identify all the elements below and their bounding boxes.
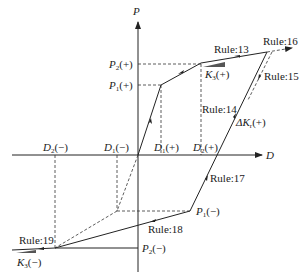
label-p2-positive: P2(+)	[108, 58, 133, 72]
d-axis-label: D	[265, 149, 274, 161]
hysteresis-diagram: P D P2(+) P1(+) P1(−) P2(−) D2(−) D1(−) …	[0, 0, 305, 279]
label-d2-negative: D2(−)	[42, 141, 68, 155]
label-d1-negative: D1(−)	[103, 141, 129, 155]
k3-negative-slope-icon	[16, 250, 36, 253]
rule19-line	[12, 248, 55, 250]
p-axis-label: P	[132, 5, 140, 17]
label-k3-negative: K3(−)	[16, 256, 42, 270]
label-d2-positive: D2(+)	[192, 141, 218, 155]
label-rule16: Rule:16	[263, 35, 298, 47]
label-rule13: Rule:13	[214, 43, 249, 55]
segment-p1-p2-positive	[161, 63, 201, 85]
label-rule18: Rule:18	[148, 223, 183, 235]
label-rule17: Rule:17	[210, 172, 245, 184]
negative-loading-dashed	[117, 155, 138, 211]
direction-arrow-icon	[150, 219, 156, 222]
rule16-dashed-extension	[267, 48, 292, 52]
label-d1-positive: D1(+)	[153, 141, 179, 155]
label-p1-negative: P1(−)	[195, 205, 220, 219]
label-k3-positive: K3(+)	[204, 68, 230, 82]
label-rule15: Rule:15	[264, 70, 299, 82]
label-rule14: Rule:14	[202, 103, 237, 115]
label-p1-positive: P1(+)	[108, 79, 133, 93]
label-delta-kr-positive: ΔKr(+)	[235, 116, 266, 130]
label-p2-negative: P2(−)	[141, 242, 166, 256]
label-rule19: Rule:19	[19, 234, 54, 246]
k3-positive-slope-icon	[203, 62, 225, 67]
negative-p1-p2-dashed	[55, 211, 117, 248]
